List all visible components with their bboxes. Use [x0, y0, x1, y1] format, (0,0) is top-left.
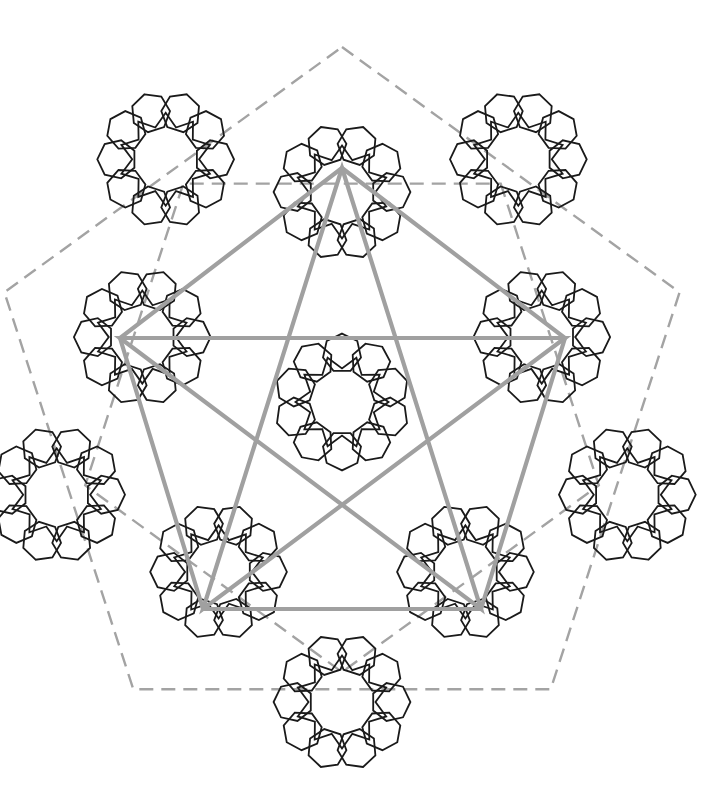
star-rosette [274, 127, 411, 257]
interlace-star-pattern [0, 94, 696, 767]
star-rosette [277, 334, 407, 471]
pentagon-pentagram-construction [120, 168, 565, 609]
star-rosette [450, 94, 587, 224]
construction-pentagram [120, 168, 565, 609]
geometric-pattern-diagram [0, 0, 717, 801]
star-rosette [97, 94, 234, 224]
star-rosette [0, 430, 125, 560]
star-rosette [274, 637, 411, 767]
dashed-pentagon [85, 184, 599, 672]
star-rosette [559, 430, 696, 560]
